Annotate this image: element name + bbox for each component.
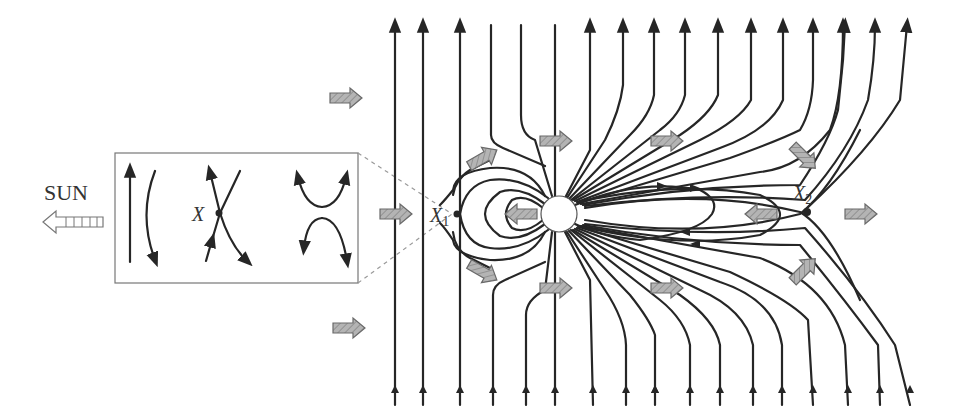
magnetosphere-diagram: SUN X <box>0 0 960 417</box>
flow-arrow-icon <box>845 204 877 224</box>
x1-point <box>454 211 461 218</box>
flow-arrow-icon <box>330 88 362 108</box>
flow-arrow-icon <box>333 318 365 338</box>
plasma-flow-arrows <box>330 88 877 338</box>
sun-label: SUN <box>44 180 88 205</box>
inset-x-label: X <box>191 203 205 225</box>
sun-indicator: SUN <box>43 180 103 233</box>
sun-direction-arrow-icon <box>43 211 103 233</box>
x1-label: X1 <box>429 204 449 229</box>
field-lines <box>391 25 914 405</box>
flow-arrow-icon <box>505 204 537 224</box>
x2-point <box>803 208 811 216</box>
x2-label: X2 <box>792 182 812 207</box>
earth <box>541 196 577 232</box>
